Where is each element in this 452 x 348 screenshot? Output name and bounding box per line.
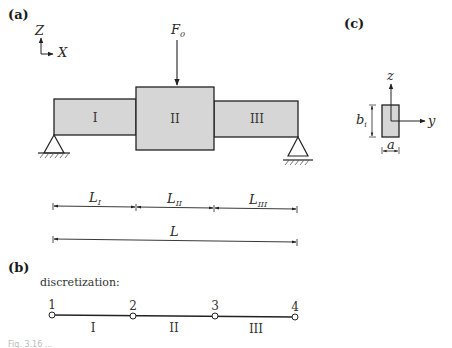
dim-L-III-label: LIII — [248, 192, 268, 209]
axis-z-local-label: z — [386, 68, 394, 83]
panel-a: (a) Z X F0 I II III — [8, 7, 313, 246]
node-2-label: 2 — [129, 299, 137, 313]
figure-canvas: (a) Z X F0 I II III — [0, 0, 452, 348]
element-I-label: I — [91, 321, 96, 335]
global-axes-icon — [41, 38, 53, 54]
force-label: F0 — [170, 22, 185, 39]
node-4-icon — [292, 314, 298, 320]
segment-I-label: I — [93, 111, 98, 125]
discretization-title: discretization: — [40, 276, 120, 289]
element-III-label: III — [249, 322, 263, 336]
node-4-label: 4 — [291, 300, 299, 314]
dim-L-II-label: LII — [166, 191, 183, 208]
dim-a-label: a — [387, 137, 395, 152]
segment-III-label: III — [250, 112, 264, 126]
node-1-label: 1 — [48, 298, 56, 312]
axis-y-local-label: y — [427, 113, 436, 128]
element-line — [52, 315, 295, 317]
node-3-icon — [212, 313, 218, 319]
segment-II-label: II — [170, 112, 180, 126]
node-3-label: 3 — [211, 299, 219, 313]
panel-a-label: (a) — [8, 7, 29, 22]
node-2-icon — [130, 313, 136, 319]
axis-z-label: Z — [34, 23, 45, 38]
height-dimension — [369, 105, 376, 137]
panel-b: (b) discretization: 1 2 3 4 I II III — [8, 260, 299, 336]
dim-L-total-label: L — [169, 224, 179, 239]
element-II-label: II — [169, 321, 179, 335]
panel-c-label: (c) — [344, 16, 364, 31]
node-1-icon — [49, 312, 55, 318]
axis-x-label: X — [57, 45, 68, 60]
dim-b-i-label: bi — [356, 112, 367, 129]
panel-c: (c) z y bi a — [344, 16, 436, 154]
panel-b-label: (b) — [8, 260, 29, 275]
roller-support-right-icon — [283, 137, 313, 165]
pin-support-left-icon — [38, 135, 70, 158]
dim-L-I-label: LI — [88, 190, 102, 207]
figure-caption: Fig. 3.16 ... — [8, 340, 52, 348]
